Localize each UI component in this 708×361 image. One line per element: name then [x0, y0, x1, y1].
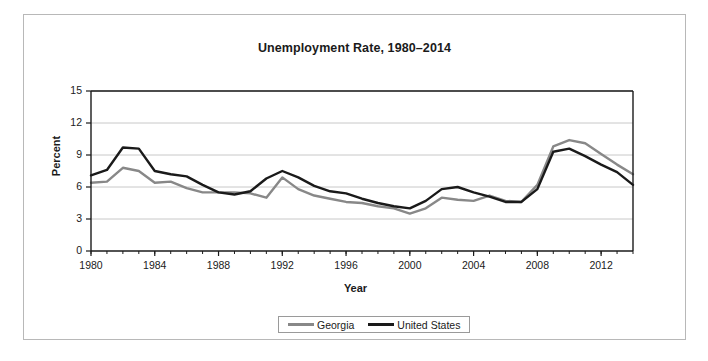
figure-frame: Unemployment Rate, 1980–2014 Percent Yea…	[23, 14, 686, 340]
y-tick-label: 6	[58, 180, 82, 192]
x-tick-label: 1988	[199, 259, 239, 271]
y-tick-label: 3	[58, 212, 82, 224]
x-tick-label: 1980	[71, 259, 111, 271]
x-tick-label: 2004	[454, 259, 494, 271]
legend-label: Georgia	[317, 319, 354, 331]
x-tick-label: 1992	[262, 259, 302, 271]
plot-border	[91, 91, 633, 251]
legend-swatch-icon	[368, 323, 394, 326]
series-line-georgia	[91, 140, 633, 214]
legend-item-united-states: United States	[368, 319, 460, 331]
data-series-layer	[91, 140, 633, 214]
legend-swatch-icon	[288, 323, 314, 326]
legend-item-georgia: Georgia	[288, 319, 354, 331]
y-tick-label: 12	[58, 116, 82, 128]
y-tick-label: 9	[58, 148, 82, 160]
x-tick-label: 1984	[135, 259, 175, 271]
y-tick-label: 15	[58, 84, 82, 96]
x-tick-label: 1996	[326, 259, 366, 271]
series-line-united-states	[91, 148, 633, 209]
x-tick-label: 2000	[390, 259, 430, 271]
chart-legend: GeorgiaUnited States	[278, 316, 470, 333]
legend-label: United States	[397, 319, 460, 331]
y-tick-label: 0	[58, 244, 82, 256]
x-tick-label: 2012	[581, 259, 621, 271]
x-tick-label: 2008	[517, 259, 557, 271]
chart-plot-area	[24, 15, 687, 341]
